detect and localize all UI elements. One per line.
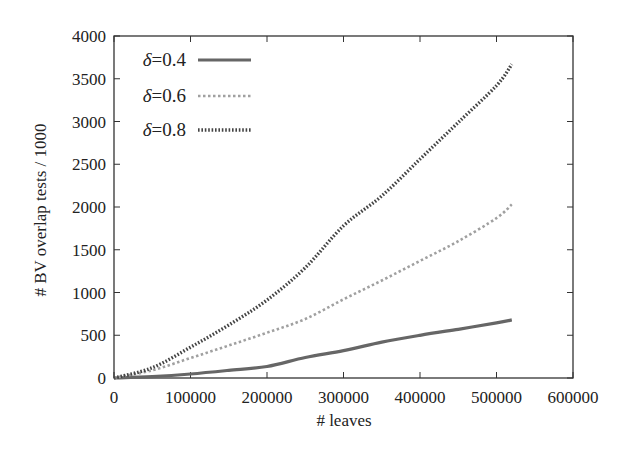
x-tick-label: 100000 (165, 388, 216, 407)
y-tick-label: 0 (98, 369, 107, 388)
legend-label: δ=0.8 (143, 119, 186, 140)
y-tick-label: 1000 (72, 284, 106, 303)
x-tick-label: 200000 (242, 388, 293, 407)
x-tick-label: 0 (110, 388, 119, 407)
legend-value: =0.4 (152, 49, 187, 70)
y-tick-label: 3500 (72, 70, 106, 89)
y-tick-label: 500 (81, 326, 107, 345)
line-chart: 0100000200000300000400000500000600000 05… (0, 0, 636, 455)
series-line-0 (114, 320, 512, 378)
y-axis: 05001000150020002500300035004000 (72, 27, 573, 388)
legend-label: δ=0.4 (143, 49, 187, 70)
legend-value: =0.6 (152, 85, 186, 106)
x-tick-label: 400000 (395, 388, 446, 407)
y-tick-label: 2000 (72, 198, 106, 217)
y-axis-label: # BV overlap tests / 1000 (31, 124, 50, 297)
x-tick-label: 300000 (318, 388, 369, 407)
legend-value: =0.8 (152, 119, 186, 140)
y-tick-label: 3000 (72, 113, 106, 132)
series-line-1 (114, 204, 512, 378)
x-tick-label: 500000 (471, 388, 522, 407)
x-axis-label: # leaves (316, 411, 371, 430)
y-tick-label: 2500 (72, 155, 106, 174)
legend: δ=0.4δ=0.6δ=0.8 (143, 49, 251, 140)
x-tick-label: 600000 (548, 388, 599, 407)
y-tick-label: 4000 (72, 27, 106, 46)
series-layer (114, 64, 512, 378)
legend-label: δ=0.6 (143, 85, 186, 106)
y-tick-label: 1500 (72, 241, 106, 260)
